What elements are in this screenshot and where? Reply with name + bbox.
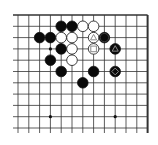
black-stone[interactable] — [67, 21, 78, 32]
hoshi-point — [49, 115, 52, 118]
hoshi-point — [49, 47, 52, 50]
white-stone[interactable] — [67, 32, 78, 43]
hoshi-point — [114, 115, 117, 118]
white-stone[interactable] — [88, 21, 99, 32]
black-stone[interactable] — [56, 66, 67, 77]
black-stone[interactable] — [78, 78, 89, 89]
go-board[interactable] — [0, 0, 158, 145]
white-stone[interactable] — [67, 55, 78, 66]
white-stone[interactable] — [78, 21, 89, 32]
black-stone[interactable] — [56, 21, 67, 32]
white-stone[interactable] — [88, 44, 99, 55]
black-stone[interactable] — [45, 55, 56, 66]
black-stone[interactable] — [56, 44, 67, 55]
white-stone[interactable] — [56, 32, 67, 43]
white-stone[interactable] — [67, 44, 78, 55]
black-stone[interactable] — [45, 32, 56, 43]
black-stone[interactable] — [88, 66, 99, 77]
black-stone[interactable] — [99, 32, 110, 43]
black-stone[interactable] — [34, 32, 45, 43]
